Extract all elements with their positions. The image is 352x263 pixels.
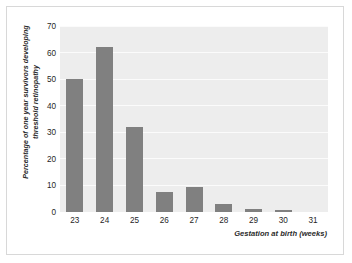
y-axis-title: Percentage of one year survivors develop… bbox=[19, 7, 45, 197]
gridline bbox=[60, 26, 328, 27]
bar bbox=[186, 187, 203, 212]
bar bbox=[156, 192, 173, 212]
chart-figure: Percentage of one year survivors develop… bbox=[6, 6, 344, 255]
bar bbox=[275, 210, 292, 212]
x-axis-tick-label: 25 bbox=[130, 216, 139, 225]
bar bbox=[245, 209, 262, 212]
bar bbox=[215, 204, 232, 212]
x-axis-tick-label: 27 bbox=[189, 216, 198, 225]
y-axis-tick-label: 30 bbox=[47, 128, 56, 137]
y-axis-title-line-1: Percentage of one year survivors develop… bbox=[22, 25, 32, 179]
y-axis-tick-label: 50 bbox=[47, 75, 56, 84]
x-axis-tick-label: 26 bbox=[160, 216, 169, 225]
x-axis-tick-label: 29 bbox=[249, 216, 258, 225]
y-axis-tick-label: 40 bbox=[47, 101, 56, 110]
y-axis-tick-label: 20 bbox=[47, 154, 56, 163]
x-axis-tick-label: 28 bbox=[219, 216, 228, 225]
x-axis-tick-label: 30 bbox=[279, 216, 288, 225]
y-axis-tick-label: 70 bbox=[47, 22, 56, 31]
plot-area: 010203040506070232425262728293031 bbox=[60, 26, 328, 212]
x-axis-tick-label: 31 bbox=[309, 216, 318, 225]
bar bbox=[96, 47, 113, 212]
x-axis-tick-label: 23 bbox=[70, 216, 79, 225]
y-axis-tick-label: 0 bbox=[51, 208, 56, 217]
y-axis-tick-label: 10 bbox=[47, 181, 56, 190]
bar bbox=[66, 79, 83, 212]
y-axis-title-line-2: threshold retinopathy bbox=[32, 65, 42, 139]
y-axis-tick-label: 60 bbox=[47, 48, 56, 57]
x-axis-title: Gestation at birth (weeks) bbox=[234, 229, 327, 238]
bar bbox=[126, 127, 143, 212]
x-axis-tick-label: 24 bbox=[100, 216, 109, 225]
